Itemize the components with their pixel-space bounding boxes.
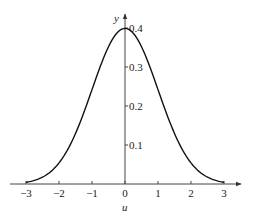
x-tick-label: −3: [20, 187, 32, 199]
y-tick-label: 0.1: [129, 139, 143, 151]
y-tick-label: 0.3: [129, 61, 143, 73]
x-tick-label: 3: [221, 187, 227, 199]
normal-curve-chart: −3−2−10123 0.10.20.30.4 y u: [0, 0, 253, 220]
x-tick-label: −2: [53, 187, 65, 199]
x-tick-label: −1: [86, 187, 98, 199]
x-tick-label: 1: [155, 187, 161, 199]
y-tick-label: 0.4: [129, 22, 143, 34]
y-tick-label: 0.2: [129, 100, 143, 112]
y-axis-label: y: [113, 12, 119, 24]
x-axis-label: u: [122, 201, 128, 213]
y-ticks: 0.10.20.30.4: [125, 22, 143, 151]
x-tick-label: 0: [122, 187, 128, 199]
x-tick-label: 2: [188, 187, 194, 199]
